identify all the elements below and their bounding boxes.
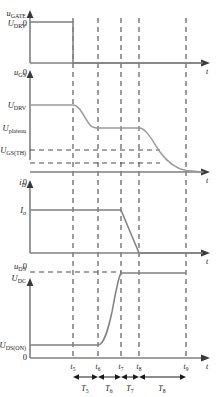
arrowhead-t5-right (92, 374, 98, 380)
waveform-u-ds (30, 273, 186, 345)
level-label-ugsth-sub: GS(TH) (6, 150, 26, 157)
level-label-udson: UDS(ON) (0, 340, 26, 352)
plot-drain-source-voltage: uDS UDC UDS(ON) (0, 261, 210, 362)
y-axis-arrow-4 (27, 278, 34, 286)
plot-drain-current: iD Io (19, 177, 210, 257)
arrowhead-t5-left (73, 374, 79, 380)
interval-labels: T5 T6 T7 T8 (81, 384, 165, 394)
level-label-io-sub: o (23, 210, 26, 216)
zero-label-1: 0 (23, 18, 27, 28)
interval-label-t8: T8 (158, 384, 165, 394)
time-instant-t7: t7 (119, 362, 124, 372)
arrowhead-t6-right (115, 374, 121, 380)
waveform-diagram: uGATE UDRV uGS UDRV Uplateau UGS(TH) iD … (0, 0, 222, 397)
arrowhead-t7-left (121, 374, 127, 380)
arrowhead-t8-left (139, 374, 145, 380)
waveform-u-gs (30, 105, 203, 172)
level-label-udrv-2-sub: DRV (14, 105, 27, 111)
time-instant-labels: t5 t6 t7 t8 t9 (71, 362, 189, 372)
time-marker-lines (73, 18, 186, 358)
level-lines-2 (30, 150, 160, 163)
time-instant-t9: t9 (184, 362, 189, 372)
time-instant-t9-sub: 9 (186, 366, 189, 372)
figure-root: uGATE UDRV uGS UDRV Uplateau UGS(TH) iD … (0, 0, 222, 397)
time-axis-labels: t t t t (206, 67, 209, 371)
time-instant-t6: t6 (96, 362, 101, 372)
time-instant-t8-sub: 8 (139, 366, 142, 372)
t-axis-label-1: t (206, 67, 209, 76)
time-instant-t8: t8 (137, 362, 142, 372)
interval-label-t8-sub: 8 (163, 388, 166, 394)
arrowhead-t6-left (98, 374, 104, 380)
y-axis-arrow-3 (27, 180, 34, 188)
time-instant-t5-sub: 5 (73, 366, 76, 372)
plot-gate-drive-voltage: uGATE UDRV (6, 8, 210, 67)
t-axis-label-4: t (206, 362, 209, 371)
zero-labels: 0 0 0 0 0 (23, 18, 27, 362)
level-label-io: Io (19, 205, 26, 216)
level-label-udson-sub: DS(ON) (6, 345, 26, 352)
interval-label-t5: T5 (81, 384, 88, 394)
level-label-uplateau-sub: plateau (9, 128, 26, 134)
zero-label-5: 0 (23, 352, 27, 362)
waveform-u-gate (30, 22, 203, 63)
interval-label-t5-sub: 5 (86, 388, 89, 394)
zero-label-3: 0 (23, 177, 27, 187)
time-instant-t5: t5 (71, 362, 76, 372)
interval-label-t7: T7 (126, 384, 133, 394)
level-label-udrv-2: UDRV (8, 100, 27, 111)
zero-label-2: 0 (23, 67, 27, 77)
level-label-udc: UDC (12, 273, 26, 284)
t-axis-label-2: t (206, 176, 209, 185)
x-axis-arrow-4 (201, 354, 210, 361)
t-axis-label-3: t (206, 257, 209, 266)
y-axis-arrow-2 (27, 70, 34, 78)
plot-gate-source-voltage: uGS UDRV Uplateau UGS(TH) (0, 67, 210, 176)
time-instant-t7-sub: 7 (121, 366, 124, 372)
level-label-udc-sub: DC (18, 278, 26, 284)
arrowhead-t8-right (180, 374, 186, 380)
level-label-ugsth: UGS(TH) (0, 145, 26, 157)
y-axis-arrow-1 (27, 10, 34, 18)
time-instant-t6-sub: 6 (98, 366, 101, 372)
interval-label-t6: T6 (105, 384, 112, 394)
arrowhead-t7-right (133, 374, 139, 380)
zero-label-4: 0 (23, 261, 27, 271)
level-label-uplateau: Uplateau (3, 123, 26, 134)
waveform-i-d (30, 210, 203, 253)
interval-label-t7-sub: 7 (131, 388, 134, 394)
axis-label-u-gate: uGATE (6, 8, 26, 19)
interval-label-t6-sub: 6 (110, 388, 113, 394)
